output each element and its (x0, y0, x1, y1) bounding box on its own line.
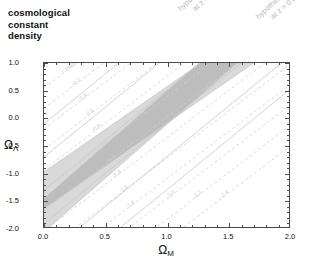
tick (287, 85, 289, 86)
tick (44, 223, 45, 227)
contour-label-12: -2.4 (218, 189, 229, 200)
tick (287, 113, 289, 114)
tick (44, 135, 46, 136)
annotation-sn-z05: hypothetical SN at z = 0.5 (254, 0, 306, 28)
page-title: cosmological constant density (8, 7, 70, 42)
tick (285, 201, 289, 202)
tick (287, 69, 289, 70)
tick (106, 63, 107, 67)
tick (287, 179, 289, 180)
tick (56, 63, 57, 65)
tick (44, 190, 46, 191)
tick (287, 74, 289, 75)
y-tick-label-0: 1.0 (9, 58, 19, 67)
tick (285, 63, 289, 64)
tick (130, 63, 131, 65)
contour-label-1: -0.2 (70, 76, 81, 87)
y-axis-subscript: Λ (13, 144, 18, 153)
x-axis-subscript: M (167, 249, 174, 258)
tick (192, 63, 193, 65)
tick (44, 91, 48, 92)
tick (266, 63, 267, 65)
tick (44, 107, 46, 108)
contour-label-11: -2.2 (191, 189, 202, 200)
tick (44, 69, 46, 70)
contour-label-4: -0.8 (90, 122, 101, 133)
annotation-sn-z10: hypothetical SN at z = 1.0 (176, 0, 228, 20)
y-tick-label-1: 0.5 (9, 85, 19, 94)
tick (279, 225, 280, 227)
y-axis-title: ΩΛ (4, 138, 18, 153)
title-line-2: constant (8, 19, 70, 31)
tick (287, 124, 289, 125)
tick (44, 212, 46, 213)
tick (285, 118, 289, 119)
tick (287, 135, 289, 136)
tick (287, 152, 289, 153)
tick (93, 225, 94, 227)
tick (254, 63, 255, 65)
tick (242, 63, 243, 65)
tick (44, 80, 46, 81)
tick (44, 185, 46, 186)
tick (56, 225, 57, 227)
tick (287, 212, 289, 213)
tick (44, 146, 48, 147)
tick (44, 207, 46, 208)
y-tick-label-4: -1.0 (6, 168, 19, 177)
plot-area: mag =-0.2-0.4-0.6-0.8-1.0-1.2-1.4-1.6-1.… (43, 62, 290, 228)
tick (44, 157, 46, 158)
tick (44, 96, 46, 97)
x-tick-label-2: 1.0 (161, 232, 171, 241)
tick (287, 196, 289, 197)
tick (81, 63, 82, 65)
tick (192, 225, 193, 227)
tick (44, 196, 46, 197)
plot-svg: mag =-0.2-0.4-0.6-0.8-1.0-1.2-1.4-1.6-1.… (44, 63, 289, 227)
tick (287, 163, 289, 164)
tick (217, 63, 218, 65)
tick (287, 207, 289, 208)
tick (44, 201, 48, 202)
tick (44, 74, 46, 75)
tick (287, 157, 289, 158)
x-tick-label-1: 0.5 (100, 232, 110, 241)
tick (143, 63, 144, 65)
tick (130, 225, 131, 227)
tick (44, 140, 46, 141)
tick (118, 225, 119, 227)
tick (93, 63, 94, 65)
tick (287, 168, 289, 169)
x-tick-label-4: 2.0 (285, 232, 295, 241)
tick (287, 102, 289, 103)
tick (168, 63, 169, 67)
contour-label-9: -1.8 (124, 199, 135, 210)
tick (287, 140, 289, 141)
tick (44, 179, 46, 180)
tick (287, 129, 289, 130)
x-tick-label-3: 1.5 (223, 232, 233, 241)
tick (285, 91, 289, 92)
tick (44, 113, 46, 114)
tick (106, 223, 107, 227)
tick (44, 174, 48, 175)
tick (285, 146, 289, 147)
tick (229, 63, 230, 67)
tick (168, 223, 169, 227)
tick (44, 124, 46, 125)
tick (44, 218, 46, 219)
tick (217, 225, 218, 227)
tick (44, 168, 46, 169)
tick (287, 80, 289, 81)
tick (44, 152, 46, 153)
contour-label-3: -0.6 (84, 107, 95, 118)
tick (205, 63, 206, 65)
tick (143, 225, 144, 227)
tick (287, 107, 289, 108)
tick (118, 63, 119, 65)
plot-canvas: mag =-0.2-0.4-0.6-0.8-1.0-1.2-1.4-1.6-1.… (44, 63, 289, 227)
contour-label-0: mag = (63, 63, 79, 72)
tick (155, 63, 156, 65)
tick (44, 102, 46, 103)
y-tick-label-6: -2.0 (6, 224, 19, 233)
